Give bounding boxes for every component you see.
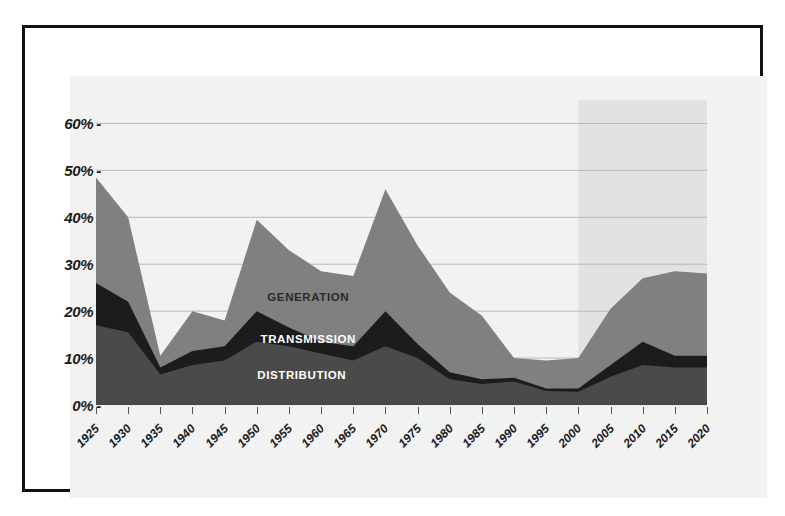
x-axis-tick-mark (96, 407, 97, 414)
x-axis-tick-mark (643, 407, 644, 414)
x-axis-tick-mark (353, 407, 354, 414)
y-axis-labels: 0%-10%-20%-30%-40%-50%-60%- (45, 100, 101, 405)
x-axis-tick-label: 1985 (459, 422, 488, 451)
x-axis-tick-mark (128, 407, 129, 414)
x-axis-tick-mark (611, 407, 612, 414)
x-axis-tick-label: 1950 (234, 422, 263, 451)
x-axis-tick-mark (578, 407, 579, 414)
x-axis-tick-mark (385, 407, 386, 414)
x-axis-tick-label: 2010 (620, 422, 649, 451)
x-axis-tick-mark (675, 407, 676, 414)
chart-screenshot: 0%-10%-20%-30%-40%-50%-60%- GENERATION T… (0, 0, 785, 516)
x-axis-tick-label: 1940 (170, 422, 199, 451)
x-axis-tick-mark (192, 407, 193, 414)
x-axis-tick-label: 1995 (524, 422, 553, 451)
x-axis-tick-mark (321, 407, 322, 414)
x-axis-tick-label: 1980 (427, 422, 456, 451)
series-label-distribution: DISTRIBUTION (257, 369, 346, 381)
x-axis-tick-label: 1960 (298, 422, 327, 451)
x-axis-tick-label: 1945 (202, 422, 231, 451)
x-axis-tick-label: 1930 (106, 422, 135, 451)
stacked-area-svg (96, 100, 707, 405)
x-axis-tick-mark (514, 407, 515, 414)
x-axis-tick-mark (707, 407, 708, 414)
x-axis-tick-label: 1955 (266, 422, 295, 451)
x-axis-tick-mark (482, 407, 483, 414)
x-axis-tick-label: 1990 (491, 422, 520, 451)
x-axis-labels: 1925193019351940194519501955196019651970… (96, 407, 707, 467)
x-axis-tick-mark (418, 407, 419, 414)
x-axis-tick-label: 1975 (395, 422, 424, 451)
x-axis-tick-label: 1935 (138, 422, 167, 451)
x-axis-tick-mark (289, 407, 290, 414)
x-axis-tick-mark (225, 407, 226, 414)
x-axis-tick-label: 2015 (652, 422, 681, 451)
series-label-generation: GENERATION (267, 291, 349, 303)
x-axis-tick-mark (546, 407, 547, 414)
x-axis-tick-mark (160, 407, 161, 414)
x-axis-tick-mark (450, 407, 451, 414)
x-axis-tick-label: 1970 (363, 422, 392, 451)
x-axis-tick-label: 1965 (331, 422, 360, 451)
x-axis-tick-label: 2005 (588, 422, 617, 451)
x-axis-tick-label: 2000 (556, 422, 585, 451)
plot-area: GENERATION TRANSMISSION DISTRIBUTION (96, 100, 707, 405)
series-label-transmission: TRANSMISSION (261, 333, 356, 345)
x-axis-tick-mark (257, 407, 258, 414)
